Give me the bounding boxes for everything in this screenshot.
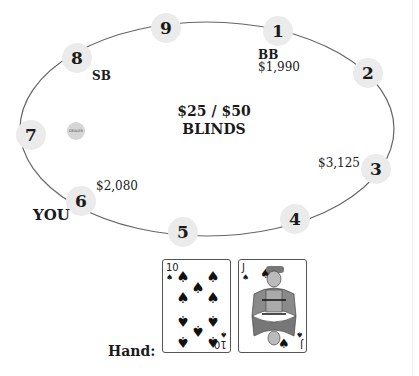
spade-icon: ♠ xyxy=(191,323,204,338)
spade-icon: ♠ xyxy=(296,330,303,338)
seat-1[interactable]: 1 xyxy=(263,16,293,46)
seat-2[interactable]: 2 xyxy=(353,58,383,88)
spade-icon: ♠ xyxy=(176,291,189,306)
dealer-button-chip: DEALER xyxy=(67,122,85,140)
seat-1-stack: $1,990 xyxy=(258,61,300,74)
seat-5[interactable]: 5 xyxy=(168,217,198,247)
seat-8[interactable]: 8 xyxy=(62,43,92,73)
seat-6[interactable]: 6 xyxy=(66,186,96,216)
seat-3-stack: $3,125 xyxy=(318,157,360,170)
card-jack-of-spades: J ♠ ♠ ♠ ♠ J xyxy=(238,259,307,353)
svg-text:♠: ♠ xyxy=(278,336,290,350)
card-rank-bottom: 10 xyxy=(214,339,227,349)
card-rank-top: J xyxy=(242,263,245,273)
you-label: YOU xyxy=(33,206,70,224)
seat-4[interactable]: 4 xyxy=(280,204,310,234)
spade-icon: ♠ xyxy=(176,270,189,285)
hand-label: Hand: xyxy=(108,343,155,359)
seat-7[interactable]: 7 xyxy=(16,120,46,150)
spade-icon: ♠ xyxy=(191,281,204,296)
spade-icon: ♠ xyxy=(220,330,227,338)
blinds-info: $25 / $50 BLINDS xyxy=(177,102,250,138)
spade-icon: ♠ xyxy=(206,313,219,328)
panel-edge-divider xyxy=(412,0,413,376)
spade-icon: ♠ xyxy=(176,334,189,349)
blinds-label: BLINDS xyxy=(177,120,250,138)
jack-face-illustration: ♠ ♠ xyxy=(248,264,300,350)
spade-icon: ♠ xyxy=(176,313,189,328)
spade-icon: ♠ xyxy=(206,270,219,285)
seat-8-role-badge: SB xyxy=(92,70,111,83)
card-rank-bottom: J xyxy=(300,339,303,349)
spade-icon: ♠ xyxy=(166,274,173,282)
seat-9[interactable]: 9 xyxy=(151,13,181,43)
card-ten-of-spades: 10 ♠ ♠ ♠ ♠ ♠ ♠ ♠ ♠ ♠ ♠ ♠ ♠ 10 xyxy=(162,259,231,353)
seat-6-stack: $2,080 xyxy=(96,180,138,193)
spade-icon: ♠ xyxy=(206,291,219,306)
seat-3[interactable]: 3 xyxy=(361,154,391,184)
blinds-amount: $25 / $50 xyxy=(177,102,250,120)
